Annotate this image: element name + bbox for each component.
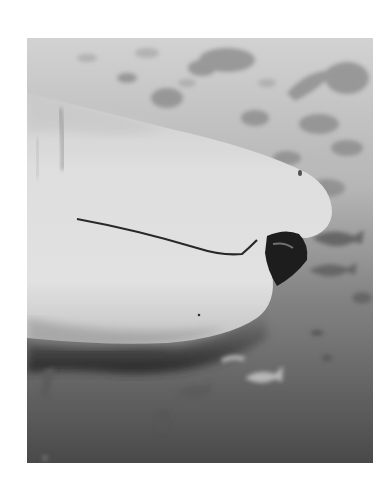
- shark-photo-illustration: [27, 38, 373, 463]
- underwater-photo: [27, 38, 373, 463]
